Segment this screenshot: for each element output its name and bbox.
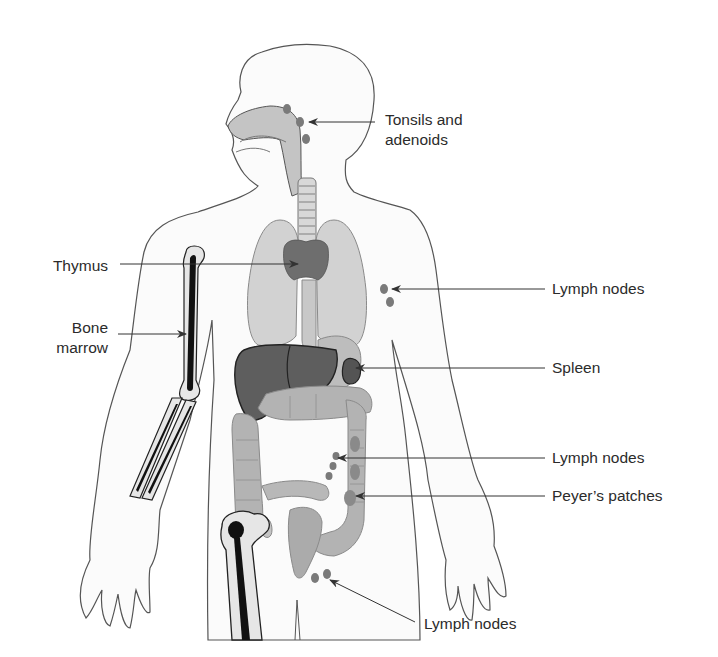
label-peyers-patches: Peyer’s patches: [552, 486, 663, 506]
spleen-organ: [342, 359, 360, 384]
label-lymph-nodes-axillary: Lymph nodes: [552, 279, 645, 299]
label-tonsils-adenoids: Tonsils and adenoids: [385, 110, 463, 150]
label-spleen: Spleen: [552, 358, 600, 378]
thymus-organ: [283, 240, 328, 280]
label-lymph-nodes-mesenteric: Lymph nodes: [552, 448, 645, 468]
femur-head-marrow: [228, 521, 244, 539]
label-thymus: Thymus: [42, 256, 108, 276]
label-lymph-nodes-inguinal: Lymph nodes: [424, 614, 517, 634]
label-bone-marrow: Bone marrow: [30, 318, 108, 358]
immune-system-diagram: Tonsils and adenoids Thymus Bone marrow …: [0, 0, 718, 657]
